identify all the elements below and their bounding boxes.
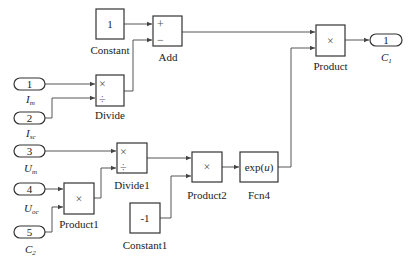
outport-1[interactable]: 1 C1	[370, 34, 402, 65]
divide-multiply-sign: ×	[99, 77, 106, 91]
fcn4-block[interactable]: exp(u) Fcn4	[240, 152, 278, 201]
constant1-value: -1	[140, 212, 149, 224]
product1-multiply-icon: ×	[76, 192, 83, 206]
inport-4[interactable]: 4 Uoc	[14, 183, 45, 216]
divide1-label: Divide1	[114, 179, 149, 191]
divide1-divide-sign: ÷	[120, 160, 127, 174]
inport-5-number: 5	[27, 226, 33, 238]
divide1-multiply-sign: ×	[120, 145, 127, 159]
product-block[interactable]: × Product	[313, 25, 347, 72]
constant-value: 1	[107, 18, 113, 30]
inport-1[interactable]: 1 Im	[14, 78, 45, 107]
inport-4-number: 4	[27, 183, 33, 195]
inport-2-number: 2	[27, 112, 33, 124]
add-plus-sign: +	[157, 17, 164, 31]
product2-multiply-icon: ×	[204, 160, 211, 174]
inport-5-label: C2	[25, 243, 36, 257]
add-label: Add	[159, 51, 178, 63]
inport-1-number: 1	[27, 78, 33, 90]
inport-4-label: Uoc	[24, 202, 39, 216]
product1-label: Product1	[59, 218, 99, 230]
outport-1-number: 1	[383, 34, 389, 46]
diagram-canvas: 1 Constant + − Add × ÷ Divide × Product …	[0, 0, 413, 266]
add-block[interactable]: + − Add	[153, 16, 182, 63]
inport-5[interactable]: 5 C2	[14, 226, 45, 257]
divide-divide-sign: ÷	[99, 92, 106, 106]
product2-label: Product2	[187, 189, 227, 201]
divide-block[interactable]: × ÷ Divide	[95, 75, 125, 121]
inport-1-label: Im	[25, 93, 35, 107]
wire-fcn4-product	[278, 48, 315, 167]
product-multiply-icon: ×	[327, 34, 334, 48]
inport-2[interactable]: 2 Isc	[14, 112, 45, 141]
wire-in2-divide	[45, 98, 95, 118]
outport-1-label: C1	[381, 51, 392, 65]
divide-label: Divide	[95, 109, 125, 121]
constant1-label: Constant1	[123, 239, 168, 251]
product1-block[interactable]: × Product1	[59, 183, 99, 230]
fcn4-expression: exp(u)	[245, 161, 274, 174]
inport-3-number: 3	[27, 145, 33, 157]
product-label: Product	[313, 60, 347, 72]
divide1-block[interactable]: × ÷ Divide1	[114, 143, 149, 191]
wire-product1-divide1	[94, 168, 116, 198]
fcn4-label: Fcn4	[248, 189, 271, 201]
constant1-block[interactable]: -1 Constant1	[123, 203, 168, 251]
inport-2-label: Isc	[25, 127, 36, 141]
constant-block[interactable]: 1 Constant	[90, 9, 129, 56]
inport-3[interactable]: 3 Um	[14, 145, 45, 176]
constant-label: Constant	[90, 44, 129, 56]
product2-block[interactable]: × Product2	[187, 152, 227, 201]
add-minus-sign: −	[157, 33, 164, 47]
inport-3-label: Um	[24, 162, 37, 176]
